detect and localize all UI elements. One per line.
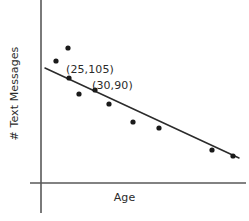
data-point: [130, 119, 135, 124]
data-point: [209, 147, 214, 152]
plot-canvas: [0, 0, 249, 221]
data-point: [76, 91, 81, 96]
data-point: [53, 58, 58, 63]
data-point: [106, 101, 111, 106]
annotation-label-30-90: (30,90): [92, 79, 133, 92]
annotation-label-25-105: (25,105): [66, 63, 114, 76]
data-point: [230, 153, 235, 158]
x-axis-title: Age: [0, 191, 249, 204]
trend-line: [45, 68, 239, 158]
data-point: [66, 75, 71, 80]
data-point: [65, 45, 70, 50]
data-point: [156, 125, 161, 130]
scatter-plot-figure: (25,105) (30,90) # Text Messages Age: [0, 0, 249, 221]
y-axis-title: # Text Messages: [8, 34, 21, 154]
